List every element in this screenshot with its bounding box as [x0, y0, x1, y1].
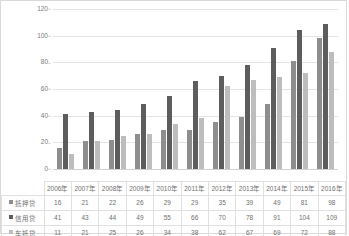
value-cell: 11 [44, 225, 71, 236]
y-axis-tick-label: 120 [37, 6, 48, 13]
value-cell: 29 [154, 196, 181, 211]
bar[interactable] [291, 61, 296, 169]
category-header-cell: 2012年 [208, 182, 235, 196]
value-cell: 21 [71, 196, 98, 211]
bar-group [234, 9, 260, 169]
value-cell: 72 [291, 225, 318, 236]
value-cell: 55 [154, 210, 181, 225]
bar[interactable] [277, 77, 282, 169]
table-row: 抵押贷1621222629293539498198 [2, 196, 346, 211]
bar[interactable] [83, 141, 88, 169]
category-header-cell: 2016年 [318, 182, 345, 196]
legend-swatch-icon [9, 230, 13, 234]
bar-group [286, 9, 312, 169]
value-cell: 104 [291, 210, 318, 225]
bar[interactable] [265, 104, 270, 169]
value-cell: 81 [291, 196, 318, 211]
bar[interactable] [135, 134, 140, 169]
bar[interactable] [57, 148, 62, 169]
bar-group [53, 9, 79, 169]
bar-group [131, 9, 157, 169]
bar[interactable] [213, 122, 218, 169]
y-axis: 020406080100120 [27, 9, 51, 169]
value-cell: 22 [99, 196, 126, 211]
value-cell: 38 [181, 225, 208, 236]
bar[interactable] [161, 130, 166, 169]
bar[interactable] [173, 124, 178, 169]
category-header-cell: 2007年 [71, 182, 98, 196]
bar[interactable] [147, 134, 152, 169]
value-cell: 67 [236, 225, 263, 236]
y-axis-tick-label: 20 [41, 139, 48, 146]
value-cell: 41 [44, 210, 71, 225]
bar[interactable] [115, 110, 120, 169]
bar-group [105, 9, 131, 169]
category-header-cell: 2015年 [291, 182, 318, 196]
bar[interactable] [323, 24, 328, 169]
bar[interactable] [271, 48, 276, 169]
bar[interactable] [63, 114, 68, 169]
bar-group [312, 9, 338, 169]
legend-entry[interactable]: 车抵贷 [2, 225, 45, 236]
value-cell: 43 [71, 210, 98, 225]
bar[interactable] [303, 73, 308, 169]
y-axis-tick-label: 60 [41, 86, 48, 93]
bar[interactable] [297, 30, 302, 169]
bar-group [208, 9, 234, 169]
category-header-cell: 2006年 [44, 182, 71, 196]
bar[interactable] [245, 65, 250, 169]
value-cell: 98 [318, 196, 345, 211]
bar[interactable] [193, 81, 198, 169]
value-cell: 88 [318, 225, 345, 236]
bar-group [79, 9, 105, 169]
value-cell: 78 [236, 210, 263, 225]
legend-entry[interactable]: 抵押贷 [2, 196, 45, 211]
legend-entry[interactable]: 信用贷 [2, 210, 45, 225]
value-cell: 109 [318, 210, 345, 225]
value-cell: 35 [208, 196, 235, 211]
y-axis-tickmark [48, 62, 51, 63]
bar[interactable] [199, 118, 204, 169]
gridline [53, 169, 338, 170]
category-header-cell: 2014年 [263, 182, 290, 196]
legend-label: 抵押贷 [15, 200, 36, 207]
value-cell: 26 [126, 225, 153, 236]
bar[interactable] [121, 136, 126, 169]
y-axis-tickmark [48, 9, 51, 10]
category-header-cell: 2013年 [236, 182, 263, 196]
table-row: 车抵贷1121252634386267697288 [2, 225, 346, 236]
bar[interactable] [317, 38, 322, 169]
bar[interactable] [69, 154, 74, 169]
bar[interactable] [95, 141, 100, 169]
bar-group [157, 9, 183, 169]
category-header-cell: 2009年 [126, 182, 153, 196]
value-cell: 16 [44, 196, 71, 211]
bar[interactable] [239, 117, 244, 169]
bar[interactable] [141, 104, 146, 169]
bar[interactable] [329, 52, 334, 169]
y-axis-tickmark [48, 169, 51, 170]
value-cell: 26 [126, 196, 153, 211]
y-axis-tick-label: 80 [41, 59, 48, 66]
bar[interactable] [187, 130, 192, 169]
bar[interactable] [89, 112, 94, 169]
value-cell: 44 [99, 210, 126, 225]
value-cell: 29 [181, 196, 208, 211]
value-cell: 21 [71, 225, 98, 236]
y-axis-tick-label: 40 [41, 112, 48, 119]
category-header-cell: 2010年 [154, 182, 181, 196]
y-axis-tickmark [48, 142, 51, 143]
y-axis-tickmark [48, 36, 51, 37]
table-row: 信用贷414344495566707891104109 [2, 210, 346, 225]
chart-container: 020406080100120 2006年2007年2008年2009年2010… [0, 0, 347, 234]
plot-area [53, 9, 338, 169]
legend-label: 车抵贷 [15, 229, 36, 236]
data-table: 2006年2007年2008年2009年2010年2011年2012年2013年… [1, 181, 346, 236]
y-axis-tickmark [48, 89, 51, 90]
bar[interactable] [251, 80, 256, 169]
legend-swatch-icon [9, 200, 13, 204]
bar[interactable] [167, 96, 172, 169]
bar[interactable] [219, 76, 224, 169]
bar[interactable] [225, 86, 230, 169]
bar[interactable] [109, 140, 114, 169]
